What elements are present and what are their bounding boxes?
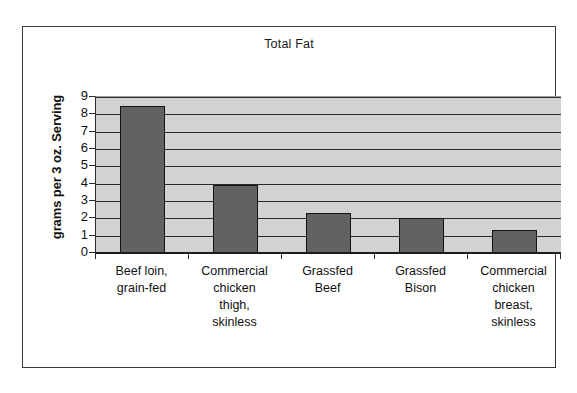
- x-axis-category-label-line: Beef: [281, 280, 374, 297]
- x-axis-tick-mark: [281, 253, 282, 259]
- x-axis-category-label: Commercialchickenbreast,skinless: [467, 263, 560, 331]
- x-axis-category-label: Commercialchickenthigh,skinless: [188, 263, 281, 331]
- x-axis-category-labels: Beef loin,grain-fedCommercialchickenthig…: [95, 263, 560, 378]
- bar: [120, 106, 165, 253]
- x-axis-category-label: GrassfedBison: [374, 263, 467, 297]
- x-axis-tick-mark: [95, 253, 96, 259]
- bar-series: [96, 97, 561, 253]
- y-axis-tick-label: 9: [70, 89, 88, 102]
- y-axis-tick-label: 6: [70, 141, 88, 154]
- y-axis-tick-label: 2: [70, 210, 88, 223]
- x-axis-category-label-line: grain-fed: [95, 280, 188, 297]
- x-axis-category-label-line: Bison: [374, 280, 467, 297]
- x-axis-category-label-line: Beef loin,: [95, 263, 188, 280]
- y-axis-tick-label: 1: [70, 228, 88, 241]
- y-axis-tick-labels: 9876543210: [70, 96, 88, 252]
- x-axis-category-label: GrassfedBeef: [281, 263, 374, 297]
- x-axis-category-label-line: chicken: [467, 280, 560, 297]
- chart-title: Total Fat: [23, 37, 555, 51]
- bar: [492, 230, 537, 253]
- y-axis-tick-label: 3: [70, 193, 88, 206]
- x-axis-line: [95, 252, 561, 253]
- bar: [399, 218, 444, 253]
- chart-frame: Total Fat grams per 3 oz. Serving 987654…: [22, 26, 556, 368]
- x-axis-category-label-line: skinless: [188, 314, 281, 331]
- x-axis-category-label-line: Grassfed: [374, 263, 467, 280]
- bar: [213, 185, 258, 253]
- y-axis-tick-label: 8: [70, 106, 88, 119]
- x-axis-tick-mark: [188, 253, 189, 259]
- x-axis-category-label-line: breast,: [467, 297, 560, 314]
- y-axis-tick-label: 7: [70, 124, 88, 137]
- x-axis-category-label-line: chicken: [188, 280, 281, 297]
- x-axis-category-label-line: skinless: [467, 314, 560, 331]
- x-axis-tick-mark: [560, 253, 561, 259]
- x-axis-category-label: Beef loin,grain-fed: [95, 263, 188, 297]
- y-axis-tick-label: 0: [70, 245, 88, 258]
- x-axis-tick-mark: [467, 253, 468, 259]
- x-axis-category-label-line: Commercial: [188, 263, 281, 280]
- y-axis-tick-label: 4: [70, 176, 88, 189]
- bar: [306, 213, 351, 253]
- x-axis-tick-mark: [374, 253, 375, 259]
- x-axis-category-label-line: Commercial: [467, 263, 560, 280]
- plot-area: [95, 96, 561, 253]
- gridline: [96, 253, 561, 254]
- y-axis-title: grams per 3 oz. Serving: [49, 77, 67, 257]
- x-axis-category-label-line: thigh,: [188, 297, 281, 314]
- y-axis-tick-label: 5: [70, 158, 88, 171]
- x-axis-category-label-line: Grassfed: [281, 263, 374, 280]
